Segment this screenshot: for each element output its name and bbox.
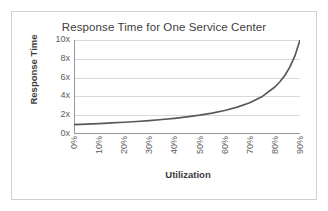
response-time-curve <box>74 40 300 125</box>
x-tick-label: 0% <box>69 136 79 170</box>
x-tick-label: 90% <box>295 136 305 170</box>
response-time-line-chart <box>74 40 300 134</box>
y-tick-label: 10x <box>30 34 70 44</box>
x-axis-title: Utilization <box>74 169 302 180</box>
plot-area: 0x2x4x6x8x10x <box>74 40 300 134</box>
x-tick-label: 10% <box>94 136 104 170</box>
x-tick-label: 70% <box>245 136 255 170</box>
x-tick-label: 30% <box>144 136 154 170</box>
y-tick-label: 0x <box>30 128 70 138</box>
y-tick-label: 6x <box>30 72 70 82</box>
x-tick-label: 60% <box>220 136 230 170</box>
y-tick-label: 8x <box>30 53 70 63</box>
x-axis-tick-labels: 0%10%20%30%40%50%60%70%80%90% <box>74 148 300 168</box>
chart-frame: Response Time for One Service Center Res… <box>11 11 317 200</box>
x-tick-label: 50% <box>195 136 205 170</box>
y-tick-label: 2x <box>30 109 70 119</box>
y-tick-label: 4x <box>30 90 70 100</box>
x-tick-label: 80% <box>270 136 280 170</box>
x-tick-label: 20% <box>119 136 129 170</box>
chart-title: Response Time for One Service Center <box>12 21 316 33</box>
gridlines <box>74 41 300 116</box>
x-tick-label: 40% <box>169 136 179 170</box>
